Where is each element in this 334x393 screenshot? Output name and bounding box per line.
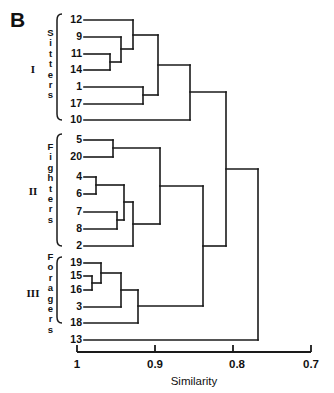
dendrogram-plot	[0, 0, 334, 393]
group-brackets	[57, 14, 62, 323]
bracket-foragers	[57, 257, 62, 323]
linkage-lines	[84, 20, 258, 340]
bracket-fighters	[57, 134, 62, 246]
dendrogram-figure: B I II III S i t t e r s F i g h t e r s…	[0, 0, 334, 393]
axis-line	[77, 345, 311, 352]
bracket-sitters	[57, 14, 62, 120]
